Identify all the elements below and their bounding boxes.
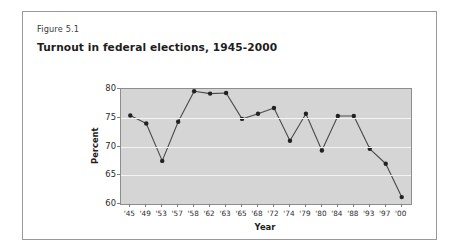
x-tick-mark <box>177 204 178 207</box>
y-tick-label: 60 <box>98 198 116 208</box>
data-point-marker <box>160 159 164 163</box>
data-point-marker <box>304 112 308 116</box>
y-tick-label: 65 <box>98 169 116 179</box>
x-tick-label: '00 <box>395 209 406 218</box>
plot-area <box>120 88 412 205</box>
x-tick-mark <box>401 204 402 207</box>
data-point-marker <box>256 112 260 116</box>
data-point-marker <box>272 106 276 110</box>
y-tick-mark <box>117 117 120 118</box>
x-tick-label: '72 <box>267 209 278 218</box>
y-tick-mark <box>117 88 120 89</box>
x-tick-label: '79 <box>299 209 310 218</box>
x-tick-label: '53 <box>156 209 167 218</box>
y-tick-mark <box>117 146 120 147</box>
x-tick-label: '80 <box>315 209 326 218</box>
x-tick-mark <box>369 204 370 207</box>
x-tick-mark <box>209 204 210 207</box>
x-tick-label: '62 <box>203 209 214 218</box>
x-tick-mark <box>337 204 338 207</box>
data-point-marker <box>192 89 196 93</box>
x-tick-mark <box>353 204 354 207</box>
x-tick-mark <box>305 204 306 207</box>
x-tick-mark <box>161 204 162 207</box>
x-tick-label: '93 <box>363 209 374 218</box>
y-tick-mark <box>117 174 120 175</box>
x-tick-label: '58 <box>187 209 198 218</box>
x-tick-label: '88 <box>347 209 358 218</box>
x-tick-mark <box>257 204 258 207</box>
x-tick-label: '49 <box>140 209 151 218</box>
line-series <box>121 89 413 206</box>
gridline <box>121 175 411 176</box>
x-axis-title: Year <box>120 222 410 232</box>
gridline <box>121 147 411 148</box>
y-tick-label: 75 <box>98 112 116 122</box>
x-tick-label: '84 <box>331 209 342 218</box>
y-tick-mark <box>117 203 120 204</box>
x-tick-label: '68 <box>251 209 262 218</box>
page-title: Turnout in federal elections, 1945-2000 <box>37 41 277 53</box>
data-point-marker <box>288 139 292 143</box>
x-tick-mark <box>385 204 386 207</box>
figure-label: Figure 5.1 <box>37 24 79 34</box>
y-tick-label: 70 <box>98 141 116 151</box>
y-tick-label: 80 <box>98 83 116 93</box>
data-point-marker <box>144 121 148 125</box>
series-line <box>130 91 401 197</box>
x-tick-mark <box>241 204 242 207</box>
x-tick-mark <box>193 204 194 207</box>
x-tick-mark <box>145 204 146 207</box>
x-tick-label: '74 <box>283 209 294 218</box>
data-point-marker <box>384 162 388 166</box>
x-tick-mark <box>273 204 274 207</box>
data-point-marker <box>208 91 212 95</box>
x-tick-mark <box>321 204 322 207</box>
x-tick-mark <box>129 204 130 207</box>
gridline <box>121 118 411 119</box>
x-tick-label: '97 <box>379 209 390 218</box>
data-point-marker <box>176 120 180 124</box>
x-tick-mark <box>225 204 226 207</box>
data-point-marker <box>224 91 228 95</box>
x-tick-mark <box>289 204 290 207</box>
x-tick-label: '63 <box>219 209 230 218</box>
x-tick-label: '45 <box>124 209 135 218</box>
data-point-marker <box>400 195 404 199</box>
data-point-marker <box>320 148 324 152</box>
x-tick-label: '65 <box>235 209 246 218</box>
chart-container: Percent 6065707580 '45'49'53'57'58'62'63… <box>98 77 418 242</box>
x-tick-label: '57 <box>172 209 183 218</box>
figure-card: Figure 5.1 Turnout in federal elections,… <box>22 11 437 240</box>
